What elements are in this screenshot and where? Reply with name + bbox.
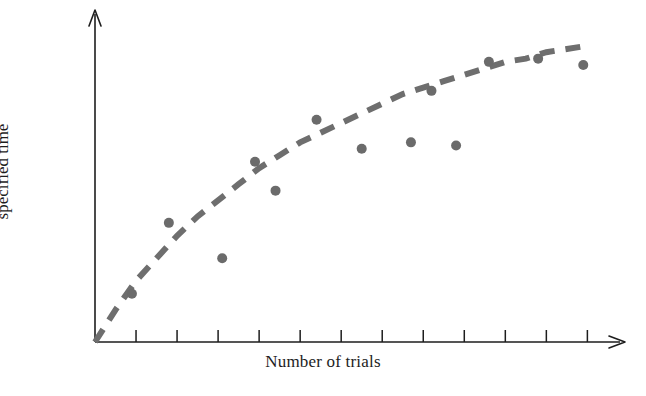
- data-point: [250, 157, 260, 167]
- data-point: [578, 60, 588, 70]
- fit-curve: [95, 46, 587, 342]
- data-points: [127, 54, 588, 299]
- data-point: [533, 54, 543, 64]
- data-point: [127, 289, 137, 299]
- x-axis-label: Number of trials: [0, 352, 646, 372]
- data-point: [357, 144, 367, 154]
- data-point: [217, 253, 227, 263]
- scatter-chart-figure: Percent of responses within specified ti…: [0, 0, 646, 396]
- data-point: [451, 141, 461, 151]
- data-point: [406, 137, 416, 147]
- data-point: [164, 218, 174, 228]
- data-point: [426, 86, 436, 96]
- plot-area: [0, 0, 646, 396]
- y-axis-label: Percent of responses within specified ti…: [0, 75, 15, 268]
- y-axis-label-container: Percent of responses within specified ti…: [0, 0, 86, 342]
- data-point: [312, 115, 322, 125]
- x-axis-ticks: [136, 330, 587, 342]
- data-point: [271, 186, 281, 196]
- data-point: [484, 57, 494, 67]
